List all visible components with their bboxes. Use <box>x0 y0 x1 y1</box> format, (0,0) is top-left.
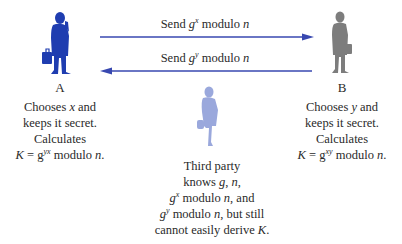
party-a-person-icon <box>38 12 78 76</box>
third-party-line-3: gx modulo n, and <box>142 190 282 206</box>
party-a-line-4: K = gyx modulo n. <box>0 147 120 163</box>
party-b-line-3: Calculates <box>282 131 402 147</box>
arrow-left-icon <box>100 66 312 76</box>
party-a-line-3: Calculates <box>0 131 120 147</box>
party-b-line-4: K = gxy modulo n. <box>282 147 402 163</box>
third-party-line-5: cannot easily derive K. <box>142 222 282 238</box>
third-party-description: Third party knows g, n, gx modulo n, and… <box>142 158 282 238</box>
party-b-person-icon <box>328 11 354 75</box>
party-b-label: B <box>334 80 350 96</box>
message-a-to-b-label: Send gx modulo n <box>150 17 260 32</box>
arrow-right-icon <box>100 32 314 42</box>
party-b-line-2: keeps it secret. <box>282 115 402 131</box>
party-a-label: A <box>52 80 68 96</box>
party-b-description: Chooses y and keeps it secret. Calculate… <box>282 99 402 163</box>
third-party-line-2: knows g, n, <box>142 174 282 190</box>
third-party-person-icon <box>194 86 224 150</box>
message-b-to-a-label: Send gy modulo n <box>150 51 260 66</box>
third-party-line-1: Third party <box>142 158 282 174</box>
third-party-line-4: gy modulo n, but still <box>142 206 282 222</box>
party-a-description: Chooses x and keeps it secret. Calculate… <box>0 99 120 163</box>
party-b-line-1: Chooses y and <box>282 99 402 115</box>
party-a-line-2: keeps it secret. <box>0 115 120 131</box>
party-a-line-1: Chooses x and <box>0 99 120 115</box>
